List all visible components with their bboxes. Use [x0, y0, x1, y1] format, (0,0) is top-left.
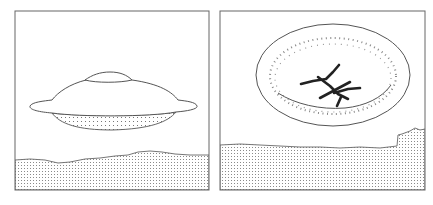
panel-left [15, 11, 209, 190]
saucer-body [30, 80, 197, 116]
landing-trace-ellipse [256, 24, 410, 126]
ground-right [220, 128, 425, 190]
saucer-dome [85, 72, 132, 82]
figure-canvas [0, 0, 433, 205]
panel-right [220, 11, 425, 190]
ground-left [15, 151, 209, 190]
